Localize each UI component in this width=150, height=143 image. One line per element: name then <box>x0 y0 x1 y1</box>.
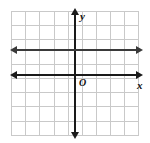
x-axis <box>16 74 136 76</box>
x-axis-label: x <box>137 80 143 91</box>
plot-line-arrow-right-icon <box>136 46 143 54</box>
x-axis-arrow-right-icon <box>136 71 143 79</box>
y-axis-arrow-down-icon <box>71 132 79 139</box>
y-axis-label: y <box>80 11 85 22</box>
y-axis-arrow-up-icon <box>71 8 79 15</box>
plot-line-arrow-left-icon <box>10 46 17 54</box>
origin-label: O <box>79 78 86 88</box>
x-axis-arrow-left-icon <box>10 71 17 79</box>
coordinate-plane-figure: y x O <box>0 0 150 143</box>
plotted-line-y-equals-2 <box>16 49 136 51</box>
